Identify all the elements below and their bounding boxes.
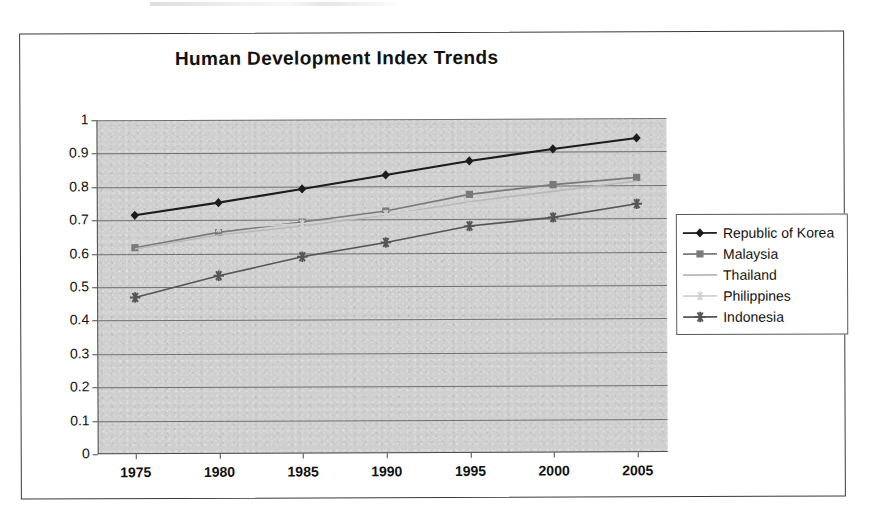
y-axis-tick-label: 0.2 [41, 379, 89, 395]
y-axis-tick-label: 0.4 [41, 312, 89, 328]
data-point-square [466, 191, 473, 198]
x-axis-tick-label: 1975 [106, 464, 166, 480]
legend-item-republic-of-korea[interactable]: Republic of Korea [681, 221, 841, 243]
x-axis-tick-mark [638, 452, 639, 457]
legend-label: Malaysia [723, 245, 778, 261]
y-axis-tick-label: 1 [40, 111, 88, 127]
legend-item-thailand[interactable]: Thailand [681, 263, 841, 285]
x-axis-tick-label: 2000 [524, 462, 584, 478]
legend-item-malaysia[interactable]: Malaysia [681, 242, 841, 264]
plot-region: 10.90.80.70.60.50.40.30.20.10 1975198019… [96, 118, 667, 454]
legend-key-icon [681, 246, 719, 260]
scan-artifact [150, 2, 400, 6]
legend-label: Republic of Korea [723, 224, 834, 240]
data-point-square [549, 181, 556, 188]
y-axis-tick-label: 0.9 [41, 145, 89, 161]
legend-key-icon [681, 309, 719, 323]
data-point-diamond [696, 228, 704, 237]
data-point-square [131, 244, 138, 251]
x-axis-tick-mark [136, 454, 137, 459]
legend-label: Thailand [723, 266, 777, 282]
y-axis-tick-label: 0.6 [41, 245, 89, 261]
legend-key-icon [681, 267, 719, 281]
data-point-diamond [214, 198, 222, 207]
x-axis-tick-label: 1995 [440, 463, 500, 479]
x-axis-tick-mark [387, 453, 388, 458]
data-point-diamond [381, 170, 389, 179]
data-point-asterisk [632, 198, 642, 208]
data-point-asterisk [297, 252, 307, 262]
x-axis-tick-mark [554, 453, 555, 458]
legend-key-icon [681, 225, 719, 239]
x-axis-tick-label: 1990 [357, 463, 417, 479]
data-point-diamond [298, 184, 306, 193]
data-point-diamond [549, 144, 557, 153]
data-point-asterisk [464, 221, 474, 231]
data-point-star [130, 232, 139, 241]
y-axis-tick-label: 0.5 [41, 278, 89, 294]
legend-item-philippines[interactable]: Philippines [681, 284, 841, 306]
data-point-asterisk [548, 212, 558, 222]
y-axis-tick-label: 0 [42, 445, 90, 461]
chart-frame: Human Development Index Trends 10.90.80.… [19, 30, 846, 499]
data-point-star [696, 291, 705, 300]
x-axis-tick-label: 1985 [273, 463, 333, 479]
series-lines [96, 118, 667, 454]
data-point-diamond [632, 133, 640, 142]
y-axis-tick-label: 0.3 [41, 345, 89, 361]
y-axis-tick-label: 0.7 [41, 212, 89, 228]
x-axis-tick-mark [470, 453, 471, 458]
legend-label: Philippines [723, 287, 791, 303]
x-axis-tick-mark [303, 453, 304, 458]
data-point-star [632, 186, 641, 195]
data-point-diamond [131, 211, 139, 220]
data-point-star [549, 195, 558, 204]
data-point-asterisk [695, 311, 705, 321]
y-axis-tick-label: 0.8 [41, 178, 89, 194]
data-point-diamond [465, 156, 473, 165]
chart-title: Human Development Index Trends [20, 46, 653, 70]
legend-label: Indonesia [723, 308, 784, 324]
data-point-asterisk [213, 271, 223, 281]
chart-legend: Republic of KoreaMalaysiaThailandPhilipp… [676, 213, 848, 335]
x-axis-tick-label: 2005 [608, 462, 668, 478]
data-point-square [696, 250, 703, 257]
x-axis-tick-mark [219, 454, 220, 459]
data-point-asterisk [381, 237, 391, 247]
legend-item-indonesia[interactable]: Indonesia [681, 305, 841, 327]
y-axis-tick-label: 0.1 [42, 412, 90, 428]
legend-key-icon [681, 288, 719, 302]
y-axis-tick-mark [93, 454, 98, 455]
x-axis-tick-label: 1980 [189, 464, 249, 480]
data-point-asterisk [130, 292, 140, 302]
data-point-square [633, 174, 640, 181]
